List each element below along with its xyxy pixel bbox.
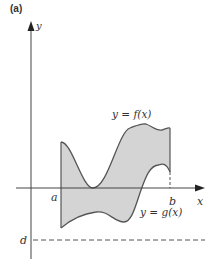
f-curve-label: y = f(x) xyxy=(111,108,151,120)
x-axis-label: x xyxy=(197,195,204,208)
g-curve-label: y = g(x) xyxy=(139,206,182,218)
y-axis-arrow-icon xyxy=(28,21,35,31)
x-axis-arrow-icon xyxy=(195,185,205,192)
point-d-label: d xyxy=(20,234,27,247)
region-diagram: (a) y x a b d y = f(x) y = g(x) xyxy=(0,0,216,277)
y-axis-label: y xyxy=(35,20,42,31)
figure-canvas: (a) y x a b d y = f(x) y = g(x) xyxy=(0,0,216,277)
point-a-label: a xyxy=(51,191,58,204)
panel-label: (a) xyxy=(10,3,22,14)
